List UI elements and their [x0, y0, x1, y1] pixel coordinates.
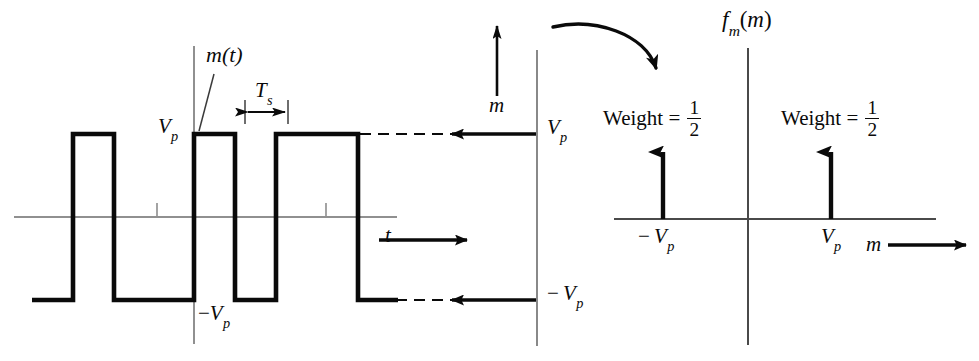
amplitude-tick-lower-label: − Vp [547, 283, 583, 307]
symbol-duration-label: Ts [255, 80, 272, 104]
signal-label-leader [199, 74, 214, 131]
amplitude-tick-upper-label: Vp [547, 117, 567, 141]
weight-numerator: 1 [865, 98, 879, 119]
pdf-axis-label-text: m [866, 232, 881, 256]
weight-denominator: 2 [687, 119, 701, 139]
weight-fraction-positive: 1 2 [865, 98, 879, 140]
time-axis-label: t [385, 225, 391, 246]
curved-mapping-arrow [553, 24, 656, 68]
amplitude-axis-label: m [489, 95, 504, 116]
amplitude-axis-label-text: m [489, 93, 504, 117]
time-axis-label-text: t [385, 223, 391, 247]
weight-label-positive-text: Weight = [781, 106, 858, 130]
weight-label-negative-text: Weight = [603, 106, 680, 130]
weight-denominator: 2 [865, 119, 879, 139]
top-level-label: Vp [158, 116, 178, 140]
weight-numerator: 1 [687, 98, 701, 119]
pdf-function-label: fm(m) [722, 8, 772, 35]
pdf-tick-label-positive: Vp [821, 226, 841, 250]
weight-label-positive: Weight = 1 2 [781, 98, 879, 140]
weight-fraction-negative: 1 2 [687, 98, 701, 140]
weight-label-negative: Weight = 1 2 [603, 98, 701, 140]
pdf-axis-label: m [866, 234, 881, 255]
figure-canvas: m(t) Vp −Vp Ts t m Vp − Vp fm(m) Weight … [0, 0, 979, 361]
pdf-tick-label-negative: − Vp [638, 226, 674, 250]
signal-label-text: m(t) [206, 42, 243, 67]
bottom-level-label: −Vp [198, 303, 230, 327]
diagram-vector-layer [0, 0, 979, 361]
signal-label: m(t) [206, 44, 243, 66]
amplitude-axis [497, 26, 537, 346]
